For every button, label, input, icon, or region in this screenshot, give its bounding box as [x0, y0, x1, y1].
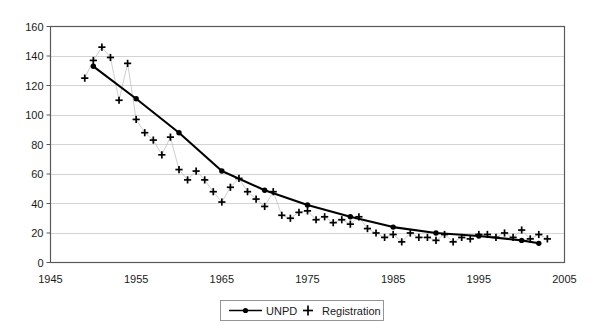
registration-data-point — [295, 209, 302, 216]
gridlines-group — [47, 27, 565, 263]
registration-data-point — [424, 234, 431, 241]
registration-data-point — [133, 116, 140, 123]
legend-unpd-dot-icon — [243, 308, 248, 313]
registration-data-point — [124, 60, 131, 67]
x-tick-label: 2005 — [552, 273, 576, 285]
registration-data-point — [338, 216, 345, 223]
registration-data-point — [432, 237, 439, 244]
registration-data-point — [115, 97, 122, 104]
x-tick-label: 1965 — [210, 273, 234, 285]
chart-container: 020406080100120140160 194519551965197519… — [0, 0, 601, 328]
y-tick-label: 20 — [31, 227, 43, 239]
x-axis-tick-labels: 1945195519651975198519952005 — [38, 273, 576, 285]
unpd-data-point — [348, 214, 353, 219]
y-tick-label: 60 — [31, 168, 43, 180]
unpd-data-point — [305, 202, 310, 207]
legend: UNPD Registration — [221, 301, 384, 321]
registration-data-point — [81, 75, 88, 82]
x-tick-label: 1945 — [38, 273, 62, 285]
legend-label-registration: Registration — [322, 305, 381, 317]
unpd-data-point — [91, 64, 96, 69]
registration-data-point — [381, 234, 388, 241]
registration-data-point — [535, 231, 542, 238]
registration-data-point — [158, 151, 165, 158]
y-tick-label: 40 — [31, 198, 43, 210]
x-tick-label: 1995 — [467, 273, 491, 285]
registration-data-point — [372, 229, 379, 236]
unpd-data-point — [262, 188, 267, 193]
y-tick-label: 120 — [25, 80, 43, 92]
registration-data-point — [167, 134, 174, 141]
registration-data-point — [278, 212, 285, 219]
registration-data-point — [321, 213, 328, 220]
registration-data-point — [364, 225, 371, 232]
unpd-data-point — [433, 230, 438, 235]
registration-data-point — [415, 234, 422, 241]
registration-data-point — [544, 235, 551, 242]
registration-data-point — [501, 229, 508, 236]
y-tick-label: 160 — [25, 21, 43, 33]
y-axis-tick-labels: 020406080100120140160 — [25, 21, 43, 269]
legend-label-unpd: UNPD — [266, 305, 297, 317]
unpd-data-point — [176, 130, 181, 135]
y-tick-label: 0 — [37, 257, 43, 269]
unpd-data-point — [219, 168, 224, 173]
registration-data-point — [287, 215, 294, 222]
x-tick-label: 1975 — [295, 273, 319, 285]
y-tick-label: 80 — [31, 139, 43, 151]
registration-data-point — [90, 57, 97, 64]
unpd-data-point — [519, 238, 524, 243]
x-tick-label: 1955 — [124, 273, 148, 285]
y-tick-label: 140 — [25, 50, 43, 62]
unpd-data-point — [390, 224, 395, 229]
x-tick-label: 1985 — [381, 273, 405, 285]
unpd-data-point — [476, 233, 481, 238]
unpd-data-point — [133, 96, 138, 101]
unpd-data-point — [536, 241, 541, 246]
chart-canvas: 020406080100120140160 194519551965197519… — [0, 0, 601, 328]
y-tick-label: 100 — [25, 109, 43, 121]
registration-data-point — [330, 219, 337, 226]
